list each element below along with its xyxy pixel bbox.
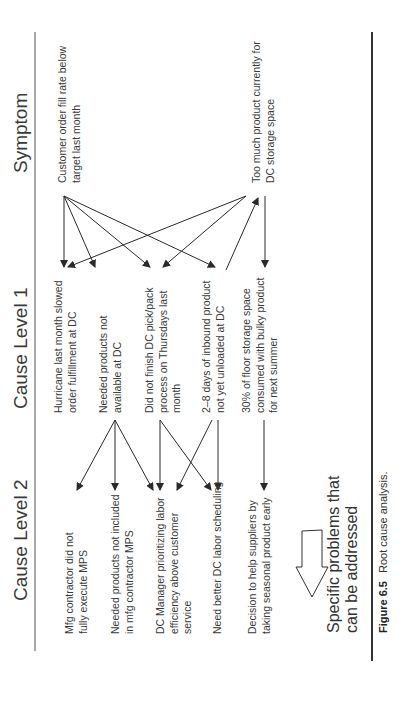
cause-level-1-box: 30% of floor storage space consumed with…: [240, 278, 281, 413]
figure-label: Figure 6.5: [377, 581, 389, 633]
root-cause-diagram: Symptom Cause Level 1 Cause Level 2 Cust…: [0, 0, 406, 701]
cause-level-2-box: Mfg contractor did not fully execute MPS: [63, 532, 90, 634]
cause-level-2-box: Needed products not included in mfg cont…: [109, 494, 136, 634]
symptom-box: Too much product currently for DC storag…: [250, 41, 277, 183]
header-symptom: Symptom: [10, 93, 32, 173]
symptom-box: Customer order fill rate below target la…: [56, 46, 83, 183]
cause-level-1-box: Did not finish DC pick/pack process on T…: [143, 288, 184, 413]
figure-caption: Figure 6.5Root cause analysis.: [377, 472, 389, 633]
cause-level-1-box: 2–8 days of inbound product not yet unlo…: [200, 280, 227, 413]
header-cause-level-2: Cause Level 2: [10, 480, 32, 601]
specific-problems-note: Specific problems that can be addressed: [325, 476, 361, 633]
cause-level-2-box: Need better DC labor scheduling: [211, 482, 225, 634]
cause-level-2-box: DC Manager prioritizing labor efficiency…: [154, 497, 195, 634]
header-cause-level-1: Cause Level 1: [10, 288, 32, 409]
cause-level-1-box: Hurricane last month slowed order fulfil…: [52, 281, 79, 413]
cause-level-2-box: Decision to help suppliers by taking sea…: [246, 497, 273, 634]
cause-level-1-box: Needed products not available at DC: [97, 316, 124, 413]
figure-title: Root cause analysis.: [377, 472, 389, 574]
left-arrow-outline-visible: [296, 530, 328, 597]
